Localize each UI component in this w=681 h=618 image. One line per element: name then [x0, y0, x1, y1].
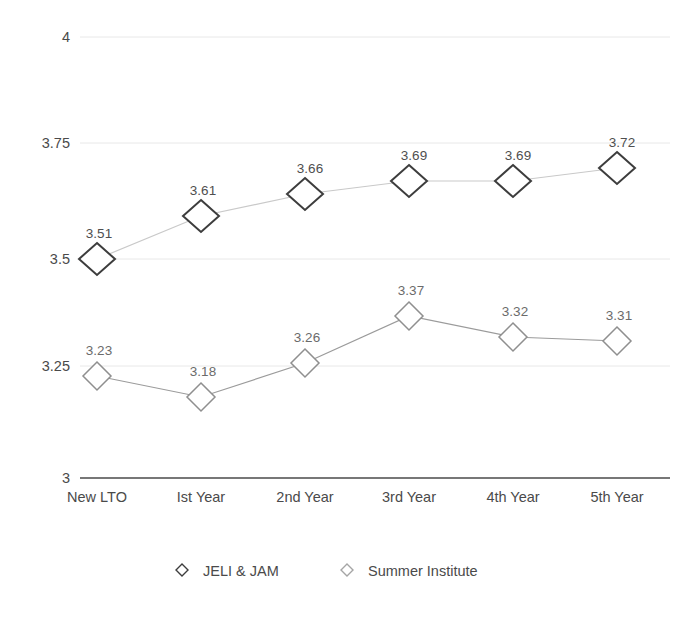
data-label: 3.26 [294, 330, 320, 345]
x-tick-label-1st-year: Ist Year [177, 489, 226, 505]
data-label: 3.69 [401, 148, 427, 163]
x-tick-label-new-lto: New LTO [67, 489, 127, 505]
x-tick-label-4th-year: 4th Year [486, 489, 539, 505]
data-label: 3.66 [297, 161, 323, 176]
data-label: 3.23 [86, 343, 112, 358]
data-label: 3.31 [606, 308, 632, 323]
y-tick-label-3-5: 3.5 [50, 251, 70, 267]
data-label: 3.18 [190, 364, 216, 379]
y-tick-label-4: 4 [62, 29, 70, 45]
legend-label-summer-institute: Summer Institute [368, 563, 478, 579]
y-tick-label-3-75: 3.75 [42, 135, 70, 151]
y-tick-label-3: 3 [62, 470, 70, 486]
x-tick-label-2nd-year: 2nd Year [276, 489, 333, 505]
x-tick-label-5th-year: 5th Year [590, 489, 643, 505]
x-tick-label-3rd-year: 3rd Year [382, 489, 436, 505]
chart-background [0, 0, 681, 618]
y-tick-label-3-25: 3.25 [42, 358, 70, 374]
line-chart: 4 3.75 3.5 3.25 3 3.23 3.18 3.26 3.37 [0, 0, 681, 618]
data-label: 3.37 [398, 283, 424, 298]
data-label: 3.32 [502, 304, 528, 319]
data-label: 3.69 [505, 148, 531, 163]
data-label: 3.51 [86, 226, 112, 241]
legend-label-jeli-and-jam: JELI & JAM [203, 563, 279, 579]
data-label: 3.72 [609, 135, 635, 150]
data-label: 3.61 [190, 183, 216, 198]
chart-container: 4 3.75 3.5 3.25 3 3.23 3.18 3.26 3.37 [0, 0, 681, 618]
